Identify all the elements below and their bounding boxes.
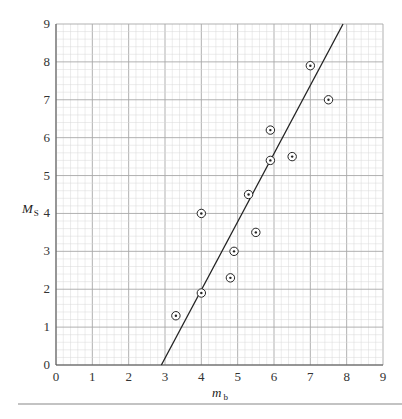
y-tick-label: 3 [44,243,51,258]
y-tick-label: 6 [44,130,51,145]
x-tick-label: 3 [162,369,169,384]
data-point-marker [288,152,296,160]
data-point-marker [306,61,314,69]
x-tick-label: 6 [271,369,278,384]
x-tick-label: 7 [307,369,314,384]
data-point-marker [172,312,180,320]
x-tick-label: 2 [125,369,132,384]
scatter-chart: 0123456789 0123456789 MS mb [0,0,402,419]
axes [56,24,383,365]
data-point-marker [244,190,252,198]
data-point-marker [230,247,238,255]
y-tick-label: 0 [44,357,51,372]
x-tick-label: 5 [234,369,241,384]
x-tick-label: 8 [343,369,350,384]
x-tick-label: 1 [89,369,96,384]
data-point-marker [197,289,205,297]
y-tick-label: 4 [44,205,51,220]
y-axis-label: MS [21,201,39,218]
x-tick-labels: 0123456789 [53,369,387,384]
data-point-marker [197,209,205,217]
data-point-marker [266,126,274,134]
x-tick-label: 4 [198,369,205,384]
y-tick-label: 8 [44,54,51,69]
y-tick-label: 7 [44,92,51,107]
y-tick-label: 5 [44,168,51,183]
x-axis-label: mb [212,385,228,402]
grid [56,24,383,365]
data-point-marker [266,156,274,164]
x-tick-label: 0 [53,369,60,384]
y-tick-label: 9 [44,16,51,31]
x-tick-label: 9 [380,369,387,384]
y-tick-labels: 0123456789 [44,16,51,372]
y-tick-label: 2 [44,281,51,296]
data-point-marker [226,274,234,282]
data-point-marker [324,96,332,104]
data-point-marker [252,228,260,236]
y-tick-label: 1 [44,319,51,334]
